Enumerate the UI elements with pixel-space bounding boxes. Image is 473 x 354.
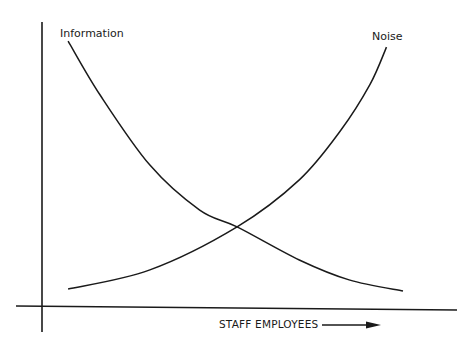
information-noise-chart: Information Noise STAFF EMPLOYEES: [0, 0, 473, 354]
series-line-noise: [68, 47, 386, 289]
series-layer: [68, 41, 403, 291]
series-label-noise: Noise: [372, 30, 403, 43]
series-line-information: [68, 41, 403, 291]
x-axis-label: STAFF EMPLOYEES: [219, 318, 319, 330]
x-axis: [16, 306, 457, 310]
series-label-information: Information: [60, 27, 124, 40]
x-axis-arrow-icon: [322, 322, 381, 329]
